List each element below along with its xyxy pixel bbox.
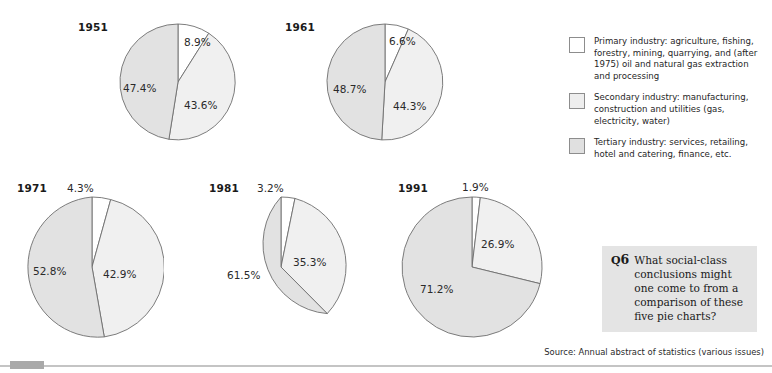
pie-chart-1971: 1971 4.3% 42.9% 52.8% [20, 195, 164, 339]
slice-tertiary-1961 [327, 24, 385, 140]
pie-graphic-1961 [325, 22, 445, 142]
pie-year-label-1951: 1951 [78, 21, 108, 33]
pie-svg-1991 [400, 195, 544, 339]
legend-item-tertiary: Tertiary industry: services, retailing, … [569, 137, 769, 160]
legend-item-secondary: Secondary industry: manufacturing, const… [569, 92, 769, 127]
pie-value-secondary-1981: 35.3% [293, 256, 326, 268]
pie-svg-1961 [325, 22, 445, 142]
pie-value-tertiary-1971: 52.8% [33, 265, 66, 277]
pie-year-label-1961: 1961 [285, 21, 315, 33]
pie-value-tertiary-1951: 47.4% [123, 82, 156, 94]
pie-value-primary-1991: 1.9% [462, 181, 489, 193]
pie-value-primary-1961: 6.6% [389, 35, 416, 47]
pie-graphic-1991 [400, 195, 544, 339]
legend-swatch-primary-icon [569, 37, 585, 53]
pie-svg-1981 [209, 195, 353, 339]
pie-value-primary-1971: 4.3% [67, 182, 94, 194]
legend-item-primary: Primary industry: agriculture, fishing, … [569, 36, 769, 82]
legend: Primary industry: agriculture, fishing, … [569, 36, 769, 170]
pie-chart-1981: 1981 3.2% 35.3% 61.5% [209, 195, 353, 339]
pie-chart-1951: 1951 8.9% 43.6% 47.4% [118, 22, 238, 142]
question-tag-prefix: Q [611, 254, 621, 267]
source-note: Source: Annual abstract of statistics (v… [544, 347, 764, 357]
pie-value-secondary-1971: 42.9% [103, 268, 136, 280]
question-box: Q6 What social-class conclusions might o… [602, 246, 757, 332]
pie-value-tertiary-1991: 71.2% [420, 283, 453, 295]
pie-value-tertiary-1981: 61.5% [227, 269, 260, 281]
question-text: What social-class conclusions might one … [634, 253, 748, 323]
legend-label-primary: Primary industry: agriculture, fishing, … [594, 36, 764, 82]
legend-swatch-secondary-icon [569, 93, 585, 109]
legend-label-tertiary: Tertiary industry: services, retailing, … [594, 137, 764, 160]
pie-chart-1991: 1991 1.9% 26.9% 71.2% [400, 195, 544, 339]
pie-year-label-1991: 1991 [398, 182, 428, 194]
pie-graphic-1981 [209, 195, 353, 339]
question-tag: Q6 [611, 253, 629, 268]
pie-value-secondary-1991: 26.9% [481, 238, 514, 250]
pie-value-primary-1951: 8.9% [184, 36, 211, 48]
question-tag-number: 6 [621, 252, 630, 267]
footer-divider [0, 365, 772, 367]
pie-year-label-1981: 1981 [209, 182, 239, 194]
pie-value-secondary-1951: 43.6% [184, 99, 217, 111]
pie-value-primary-1981: 3.2% [257, 182, 284, 194]
pie-chart-1961: 1961 6.6% 44.3% 48.7% [325, 22, 445, 142]
pie-value-tertiary-1961: 48.7% [333, 83, 366, 95]
legend-swatch-tertiary-icon [569, 138, 585, 154]
pie-value-secondary-1961: 44.3% [393, 100, 426, 112]
pie-year-label-1971: 1971 [17, 182, 47, 194]
legend-label-secondary: Secondary industry: manufacturing, const… [594, 92, 764, 127]
footer-tab-marker [10, 361, 44, 369]
